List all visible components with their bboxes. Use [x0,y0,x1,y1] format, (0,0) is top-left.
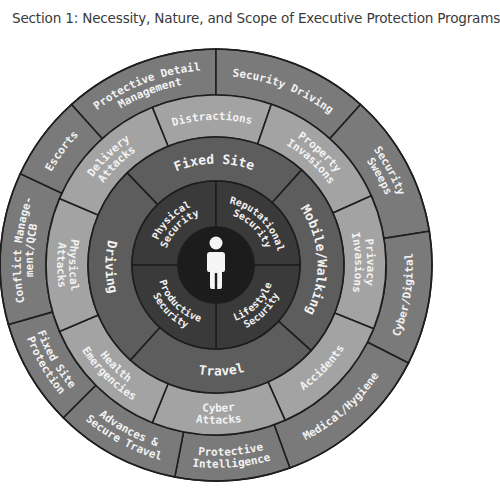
core-circle [178,227,254,303]
segment-label: Attacks [54,242,69,289]
segment-label: Physical [66,238,81,292]
segment-label: Cyber [202,401,236,415]
segment-label: Attacks [195,412,242,427]
